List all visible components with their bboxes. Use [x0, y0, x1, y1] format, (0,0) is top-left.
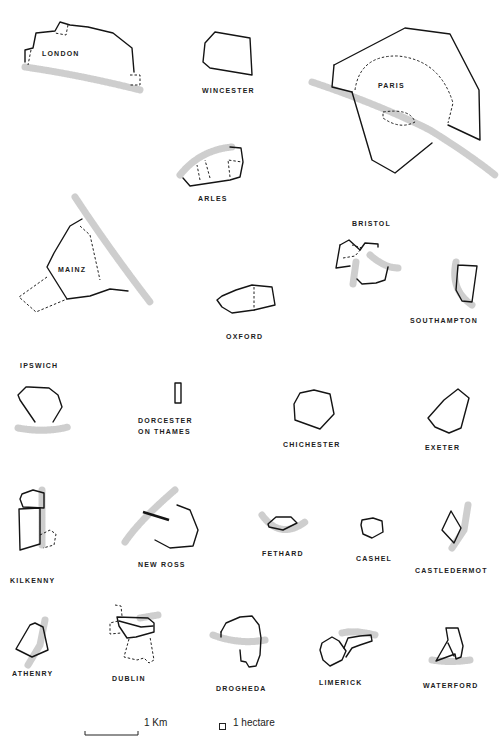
- wall-chichester: [294, 390, 334, 429]
- scale-label: 1 Km: [144, 717, 167, 728]
- wall-bristol: [336, 245, 350, 268]
- town-plan-drogheda: [213, 616, 265, 667]
- river-london: [25, 67, 140, 90]
- wall-bristol: [340, 240, 378, 250]
- town-label-waterford: WATERFORD: [423, 682, 478, 689]
- earlier-wall-arles: [197, 165, 200, 180]
- town-plan-exeter: [428, 389, 469, 433]
- wall-exeter: [428, 389, 469, 433]
- town-label-london: LONDON: [42, 50, 80, 57]
- wall-kilkenny: [19, 508, 40, 550]
- river-bristol: [370, 255, 398, 268]
- scale-bar-icon: [84, 730, 140, 736]
- town-plans-svg: [0, 0, 502, 746]
- town-label-wincester: WINCESTER: [202, 87, 255, 94]
- hectare-square-icon: [219, 723, 226, 730]
- wall-dorcester: [175, 383, 181, 403]
- earlier-wall-dublin: [115, 605, 122, 616]
- town-label-kilkenny: KILKENNY: [10, 577, 55, 584]
- town-label-mainz: MAINZ: [58, 266, 86, 273]
- wall-dublin: [119, 621, 153, 627]
- town-plan-paris: [312, 28, 495, 175]
- earlier-wall-london: [130, 75, 140, 85]
- river-arles: [180, 147, 232, 175]
- town-label-fethard: FETHARD: [262, 550, 304, 557]
- town-plan-fethard: [262, 515, 305, 530]
- town-label-castledermot: CASTLEDERMOT: [415, 567, 488, 574]
- town-label-bristol: BRISTOL: [352, 220, 391, 227]
- town-plan-southampton: [455, 262, 477, 305]
- town-plan-waterford: [432, 628, 470, 662]
- river-newross: [125, 490, 175, 542]
- river-bristol: [353, 262, 356, 284]
- wall-waterford: [448, 643, 454, 656]
- wall-bristol: [357, 267, 388, 284]
- wall-limerick: [320, 637, 346, 666]
- river-paris: [312, 82, 495, 175]
- town-plan-oxford: [217, 285, 275, 313]
- wall-limerick: [344, 635, 372, 657]
- scale-bar: [84, 722, 140, 727]
- town-plan-newross: [125, 490, 198, 548]
- earlier-wall-dublin: [124, 637, 154, 663]
- town-plan-kilkenny: [19, 490, 56, 550]
- town-plan-castledermot: [442, 505, 468, 548]
- wall-london: [25, 22, 134, 72]
- town-label-exeter: EXETER: [425, 444, 460, 451]
- town-label-arles: ARLES: [198, 195, 228, 202]
- town-plan-arles: [180, 147, 243, 186]
- wall-wincester: [203, 32, 252, 75]
- wall-waterford: [436, 628, 463, 661]
- earlier-wall-london: [28, 50, 31, 65]
- wall-dublin: [117, 617, 154, 638]
- earlier-wall-paris: [355, 56, 453, 123]
- town-plan-wincester: [203, 32, 252, 75]
- town-plan-chichester: [294, 390, 334, 429]
- wall-ipswich: [18, 387, 62, 422]
- wall-newross: [155, 505, 198, 548]
- town-label-limerick: LIMERICK: [319, 679, 362, 686]
- earlier-wall-bristol: [343, 245, 362, 258]
- river-ipswich: [18, 427, 68, 430]
- town-label-dorcester: DORCESTER: [138, 417, 193, 424]
- town-plans-figure: LONDONWINCESTERPARISARLESMAINZOXFORDBRIS…: [0, 0, 502, 746]
- earlier-wall-mainz: [19, 277, 67, 312]
- town-label-southampton: SOUTHAMPTON: [410, 317, 478, 324]
- wall-cashel: [361, 518, 383, 538]
- town-label-paris: PARIS: [378, 82, 405, 89]
- town-plan-ipswich: [18, 387, 68, 430]
- town-label-dublin: DUBLIN: [112, 675, 146, 682]
- town-label-chichester: CHICHESTER: [283, 441, 341, 448]
- town-plan-dublin: [110, 605, 158, 663]
- town-plan-mainz: [19, 197, 150, 312]
- river-mainz: [75, 197, 150, 302]
- wall-paris: [332, 65, 352, 92]
- town-plan-limerick: [320, 632, 375, 666]
- town-plan-cashel: [361, 518, 383, 538]
- hectare-label: 1 hectare: [233, 717, 275, 728]
- town-label-drogheda: DROGHEDA: [216, 685, 266, 692]
- town-label-ipswich: IPSWICH: [20, 362, 58, 369]
- wall-oxford: [217, 285, 275, 313]
- earlier-wall-arles: [205, 160, 210, 178]
- town-label-athenry: ATHENRY: [12, 670, 53, 677]
- town-label-oxford: OXFORD: [226, 333, 263, 340]
- town-label-newross: NEW ROSS: [138, 561, 186, 568]
- town-label-dorcester-line2: ON THAMES: [138, 428, 191, 435]
- town-label-cashel: CASHEL: [356, 555, 392, 562]
- town-plan-dorcester: [175, 383, 181, 403]
- town-plan-athenry: [16, 620, 48, 665]
- town-plan-bristol: [336, 240, 398, 284]
